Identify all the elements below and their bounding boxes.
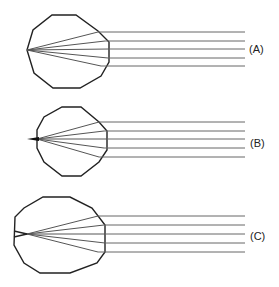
ray [27,216,98,234]
lens-outline [37,107,107,176]
ray [27,41,105,50]
optics-diagram [0,0,279,287]
label-a: (A) [249,43,264,55]
ray [37,139,104,148]
label-c: (C) [250,230,265,242]
ray [37,131,104,139]
ray [27,234,105,243]
ray [37,122,99,139]
ray [27,50,108,58]
ray [27,225,104,234]
back-ray [14,231,27,234]
back-ray [14,234,27,237]
ray [27,50,101,66]
ray [37,139,99,157]
panel-b [27,107,245,176]
panel-c [14,197,245,273]
arrowhead-icon [27,137,39,141]
panel-a [27,15,245,88]
label-b: (B) [250,137,265,149]
ray [27,49,109,50]
lens-outline [14,197,105,273]
ray [27,234,98,252]
ray [27,32,98,50]
